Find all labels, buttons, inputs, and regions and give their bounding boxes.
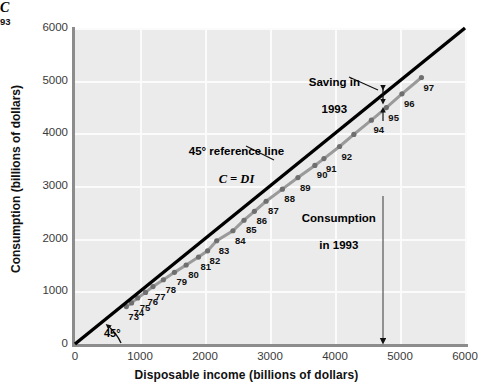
annotation-consumption-1993: Consumption in 1993 xyxy=(289,198,376,266)
data-point-marker[interactable] xyxy=(399,91,404,96)
data-point-label: 77 xyxy=(155,291,166,302)
annotation-angle-45: 45° xyxy=(104,327,121,340)
data-point-marker[interactable] xyxy=(241,218,246,223)
annotation-saving-1993: Saving in 1993 xyxy=(296,62,360,130)
data-point-marker[interactable] xyxy=(161,277,166,282)
data-point-label: 84 xyxy=(235,235,246,246)
data-point-marker[interactable] xyxy=(351,132,356,137)
data-point-label: 78 xyxy=(165,284,176,295)
data-point-label: 95 xyxy=(388,112,399,123)
data-point-label: 87 xyxy=(268,205,279,216)
data-point-label: 79 xyxy=(176,276,187,287)
data-point-label: 80 xyxy=(188,269,199,280)
data-point-marker[interactable] xyxy=(184,262,189,267)
saving-label-line1: Saving in xyxy=(309,76,360,88)
data-point-marker[interactable] xyxy=(150,284,155,289)
data-point-label: 86 xyxy=(256,215,267,226)
data-point-marker[interactable] xyxy=(419,75,424,80)
data-point-marker[interactable] xyxy=(196,255,201,260)
data-point-label: 91 xyxy=(326,163,337,174)
data-point-label: 97 xyxy=(423,82,434,93)
data-point-marker[interactable] xyxy=(214,238,219,243)
chart-figure: 0100020003000400050006000 01000200030004… xyxy=(0,0,493,389)
consumption-label-line1: Consumption xyxy=(302,212,376,224)
data-point-label: 88 xyxy=(284,193,295,204)
data-point-marker[interactable] xyxy=(143,290,148,295)
data-point-label: 96 xyxy=(404,98,415,109)
data-point-marker[interactable] xyxy=(230,228,235,233)
data-point-marker[interactable] xyxy=(312,163,317,168)
annotation-reference-line: 45° reference line C = DI xyxy=(176,131,284,200)
reference-label-line2: C = DI xyxy=(219,172,255,186)
reference-label-line1: 45° reference line xyxy=(189,145,284,157)
data-point-marker[interactable] xyxy=(321,156,326,161)
data-point-marker[interactable] xyxy=(252,209,257,214)
data-point-marker[interactable] xyxy=(295,175,300,180)
data-point-marker[interactable] xyxy=(369,118,374,123)
data-point-marker[interactable] xyxy=(205,248,210,253)
data-point-marker[interactable] xyxy=(384,105,389,110)
data-point-label: 82 xyxy=(210,255,221,266)
consumption-label-line2: in 1993 xyxy=(319,239,358,251)
data-point-label: 85 xyxy=(246,224,257,235)
data-point-label: 83 xyxy=(219,245,230,256)
data-point-label: 92 xyxy=(342,151,353,162)
saving-label-line2: 1993 xyxy=(322,103,348,115)
data-point-label: 94 xyxy=(373,124,384,135)
data-point-label: 89 xyxy=(300,182,311,193)
data-point-marker[interactable] xyxy=(337,144,342,149)
data-point-marker[interactable] xyxy=(172,270,177,275)
